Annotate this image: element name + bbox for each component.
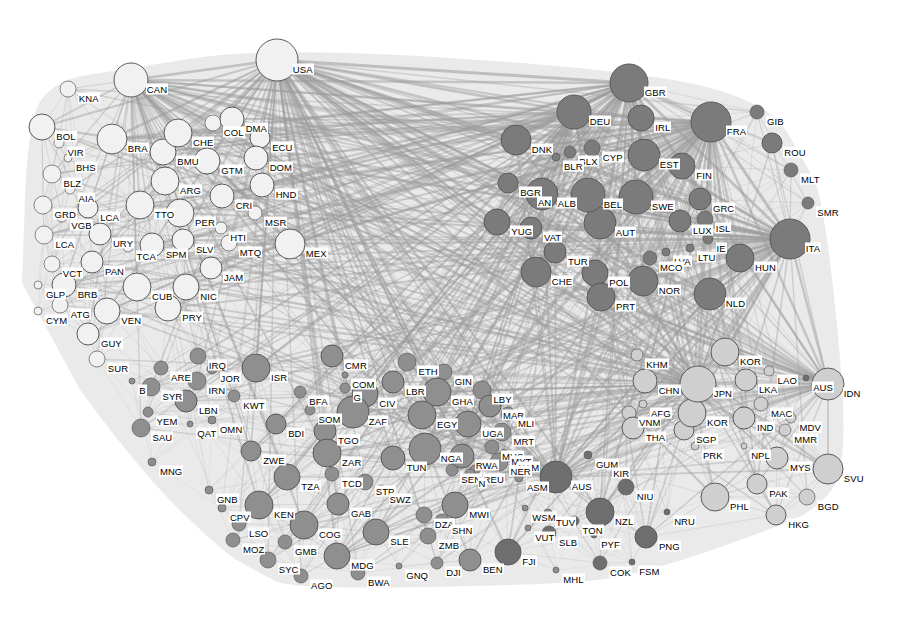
graph-node-jor[interactable]	[207, 364, 217, 374]
graph-node-gib[interactable]	[750, 105, 764, 119]
graph-node-lbr[interactable]	[382, 371, 404, 393]
graph-node-tuv[interactable]	[544, 509, 552, 517]
graph-node-cok[interactable]	[593, 556, 607, 570]
graph-node-mac[interactable]	[754, 397, 768, 411]
graph-node-bel[interactable]	[571, 178, 605, 212]
graph-node-smr[interactable]	[802, 197, 814, 209]
graph-node-fsm[interactable]	[629, 559, 635, 565]
graph-node-lva[interactable]	[662, 248, 670, 256]
graph-node-isl[interactable]	[697, 211, 713, 227]
graph-node-asm[interactable]	[515, 474, 523, 482]
graph-node-fin[interactable]	[669, 153, 695, 179]
graph-node-bwa[interactable]	[351, 566, 365, 580]
graph-node-prk[interactable]	[691, 442, 699, 450]
graph-node-tcd[interactable]	[325, 467, 339, 481]
graph-node-blr[interactable]	[552, 153, 560, 161]
graph-node-swz[interactable]	[376, 485, 386, 495]
graph-node-sau[interactable]	[132, 419, 150, 437]
graph-node-irn[interactable]	[188, 372, 206, 390]
graph-node-are[interactable]	[154, 361, 168, 375]
graph-node-gab[interactable]	[327, 493, 349, 515]
graph-node-kor2[interactable]	[678, 399, 706, 427]
graph-node-cri[interactable]	[210, 184, 234, 208]
graph-node-per[interactable]	[166, 199, 194, 227]
graph-node-aia[interactable]	[65, 184, 75, 194]
graph-node-qat[interactable]	[187, 421, 193, 427]
graph-node-hun[interactable]	[726, 244, 754, 272]
graph-node-wsm[interactable]	[522, 505, 528, 511]
graph-node-vct[interactable]	[44, 256, 60, 272]
graph-node-hnd[interactable]	[250, 173, 274, 197]
graph-node-nic[interactable]	[173, 274, 199, 300]
graph-node-alb[interactable]	[526, 178, 558, 210]
graph-node-phl[interactable]	[701, 483, 729, 511]
graph-node-pyf[interactable]	[591, 532, 597, 538]
graph-node-gmb[interactable]	[278, 535, 292, 549]
graph-node-ven[interactable]	[94, 298, 120, 324]
graph-node-sle[interactable]	[363, 519, 389, 545]
graph-node-slv[interactable]	[172, 229, 194, 251]
graph-node-vgb[interactable]	[56, 210, 68, 222]
graph-node-bol[interactable]	[29, 114, 55, 140]
graph-node-lca1[interactable]	[78, 198, 98, 218]
graph-node-com[interactable]	[342, 372, 348, 378]
graph-node-bfa[interactable]	[294, 386, 306, 398]
graph-node-niu[interactable]	[618, 479, 634, 495]
graph-node-ner[interactable]	[490, 453, 508, 471]
graph-node-rwa[interactable]	[450, 444, 474, 468]
graph-node-glp[interactable]	[34, 281, 42, 289]
graph-node-ltu[interactable]	[686, 244, 694, 252]
graph-node-mhl[interactable]	[553, 567, 559, 573]
graph-node-ita[interactable]	[770, 219, 810, 259]
graph-node-guy[interactable]	[77, 323, 99, 345]
graph-node-spm[interactable]	[140, 233, 164, 257]
graph-node-yem[interactable]	[143, 407, 153, 417]
graph-node-deu[interactable]	[557, 95, 591, 129]
graph-node-arg[interactable]	[151, 167, 179, 195]
graph-node-jpn[interactable]	[680, 366, 716, 402]
graph-node-mrt[interactable]	[493, 423, 511, 441]
graph-node-zwe[interactable]	[241, 441, 261, 461]
graph-node-zmb[interactable]	[420, 528, 436, 544]
graph-node-swe[interactable]	[619, 180, 653, 214]
graph-node-che-am[interactable]	[164, 119, 192, 147]
graph-node-mtq[interactable]	[221, 235, 237, 251]
graph-node-zaf[interactable]	[337, 396, 369, 428]
graph-node-cog[interactable]	[290, 511, 318, 539]
graph-node-tca[interactable]	[123, 242, 133, 252]
graph-node-stp[interactable]	[357, 474, 373, 490]
graph-node-egy[interactable]	[408, 401, 436, 429]
graph-node-nzl[interactable]	[586, 498, 614, 526]
graph-node-cpv[interactable]	[218, 504, 226, 512]
graph-node-dma[interactable]	[220, 107, 244, 131]
graph-node-grd[interactable]	[34, 196, 52, 214]
graph-node-ben[interactable]	[459, 549, 481, 571]
graph-node-lca2[interactable]	[35, 226, 53, 244]
graph-node-lka[interactable]	[735, 369, 757, 391]
graph-node-png[interactable]	[635, 526, 657, 548]
graph-node-gbr[interactable]	[610, 64, 648, 102]
graph-node-grc[interactable]	[689, 188, 711, 210]
graph-node-tto[interactable]	[126, 191, 154, 219]
graph-node-dji[interactable]	[431, 557, 443, 569]
graph-node-blz[interactable]	[43, 165, 61, 183]
graph-node-mus[interactable]	[485, 440, 499, 454]
graph-node-msr[interactable]	[248, 206, 262, 220]
graph-node-dom[interactable]	[244, 146, 268, 170]
graph-node-cmr[interactable]	[321, 345, 343, 367]
graph-node-tun[interactable]	[381, 446, 405, 470]
graph-node-nru[interactable]	[664, 509, 670, 515]
graph-node-dnk[interactable]	[501, 125, 531, 155]
graph-node-ecu[interactable]	[250, 128, 270, 148]
graph-node-cym[interactable]	[34, 307, 42, 315]
graph-node-omn[interactable]	[208, 416, 216, 424]
graph-node-vir[interactable]	[54, 138, 64, 148]
graph-node-mdv[interactable]	[786, 413, 796, 423]
graph-node-nld[interactable]	[694, 278, 726, 310]
graph-node-kor1[interactable]	[711, 338, 739, 366]
graph-node-rou[interactable]	[762, 133, 782, 153]
graph-node-yug[interactable]	[484, 209, 510, 235]
graph-node-khm[interactable]	[631, 349, 643, 361]
graph-node-lbn[interactable]	[175, 390, 197, 412]
graph-node-sur[interactable]	[89, 351, 105, 367]
